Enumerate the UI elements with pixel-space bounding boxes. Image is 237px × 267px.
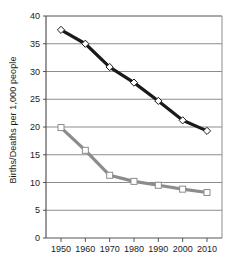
x-tick-label: 1950 (51, 244, 71, 254)
data-point-marker-deaths (58, 125, 64, 131)
data-point-marker-deaths (155, 182, 161, 188)
line-chart: 0510152025303540 19501960197019801990200… (0, 0, 237, 267)
x-tick-label: 1980 (124, 244, 144, 254)
data-point-marker-deaths (180, 186, 186, 192)
y-tick-label: 35 (30, 39, 40, 49)
x-tick-label: 1970 (100, 244, 120, 254)
x-tick-label: 2000 (173, 244, 193, 254)
x-tick-label: 2010 (197, 244, 217, 254)
data-point-marker-deaths (82, 147, 88, 153)
data-point-marker-deaths (107, 172, 113, 178)
y-tick-label: 0 (35, 233, 40, 243)
y-tick-label: 25 (30, 94, 40, 104)
y-tick-label: 40 (30, 11, 40, 21)
x-tick-label: 1990 (148, 244, 168, 254)
y-tick-label: 30 (30, 67, 40, 77)
x-tick-label: 1960 (75, 244, 95, 254)
chart-container: Births/Deaths per 1,000 people 051015202… (0, 0, 237, 267)
y-axis-ticks: 0510152025303540 (30, 11, 46, 243)
data-series-layer (57, 26, 210, 195)
data-point-marker-deaths (131, 178, 137, 184)
data-point-marker-deaths (204, 189, 210, 195)
y-tick-label: 20 (30, 122, 40, 132)
y-tick-label: 10 (30, 178, 40, 188)
x-axis-ticks: 1950196019701980199020002010 (51, 238, 217, 254)
y-tick-label: 5 (35, 205, 40, 215)
y-tick-label: 15 (30, 150, 40, 160)
